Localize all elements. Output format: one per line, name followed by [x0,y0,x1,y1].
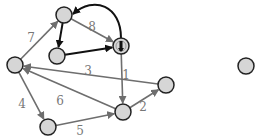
edge-weight-label: 8 [88,20,96,34]
edge-weight-label: 6 [56,94,64,108]
edge-bottom_right-to-left [23,69,115,109]
edge-weight-label: 5 [76,124,84,137]
node-mid[interactable] [49,48,65,64]
node-far_right[interactable] [238,58,254,74]
node-bottom_right[interactable] [115,104,131,120]
node-bottom_left[interactable] [40,119,56,135]
edge-weight-label: 2 [139,100,147,114]
edge-weight-label: 1 [122,68,130,82]
edge-weight-label: 7 [27,31,35,45]
edge-mid-to-source [65,47,112,54]
node-right[interactable] [158,77,174,93]
nodes-layer [7,7,254,135]
graph-canvas: 78314652 [0,0,256,136]
node-left[interactable] [7,57,23,73]
edge-weight-label: 4 [18,97,26,111]
edge-weight-label: 3 [84,64,92,78]
edge-bottom_left-to-bottom_right [56,114,114,126]
edge-top-to-mid [59,23,63,47]
node-top[interactable] [56,7,72,23]
